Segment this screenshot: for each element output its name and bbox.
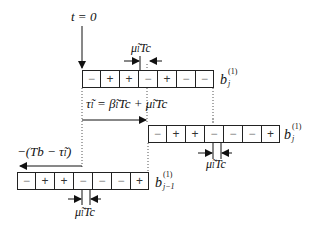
chip-cell: + (130, 172, 149, 190)
bit-symbol: b (155, 175, 162, 190)
mu-middle-label: μ̃ₗTc (206, 158, 226, 170)
chip-cell: + (185, 125, 205, 143)
chip-cell: + (166, 125, 186, 143)
chip-cell: − (111, 172, 131, 190)
chip-cell: − (73, 172, 93, 190)
negative-offset-label: −(Tb − τ̃ₗ) (17, 145, 71, 158)
bit-label-current: b (1) j (220, 73, 227, 87)
chip-cell: − (223, 125, 243, 143)
bit-superscript: (1) (163, 171, 172, 179)
chip-cell: − (17, 172, 36, 190)
bit-subscript: j (292, 135, 294, 143)
bit-superscript: (1) (292, 123, 301, 131)
bit-symbol: b (284, 127, 291, 142)
chip-cell: − (82, 70, 101, 88)
bit-label-delayed: b (1) j (284, 128, 291, 142)
chip-cell: + (35, 172, 55, 190)
bit-superscript: (1) (228, 68, 237, 76)
chip-cell: + (157, 70, 177, 88)
bit-symbol: b (220, 72, 227, 87)
mu-bottom-label: μ̃ₗTc (75, 206, 95, 218)
time-zero-label: t = 0 (71, 10, 96, 23)
chip-cell: − (242, 125, 262, 143)
chip-cell: + (119, 70, 139, 88)
chip-cell: − (195, 70, 214, 88)
chip-cell: − (148, 125, 167, 143)
chip-cell: − (92, 172, 112, 190)
mu-top-label: μ̃ₗTc (131, 42, 151, 54)
chip-cell: − (204, 125, 224, 143)
tau-equation-label: τ̃ₗ = β̃ₗTc + μ̃ₗTc (86, 97, 167, 110)
bit-subscript: j−1 (163, 183, 175, 191)
bit-label-previous: b (1) j−1 (155, 176, 162, 190)
diagram-canvas (0, 0, 316, 234)
chip-cell: + (54, 172, 74, 190)
chip-cell: − (176, 70, 196, 88)
bit-subscript: j (228, 80, 230, 88)
chip-cell: + (100, 70, 120, 88)
chip-cell: + (261, 125, 280, 143)
chip-cell: − (138, 70, 158, 88)
